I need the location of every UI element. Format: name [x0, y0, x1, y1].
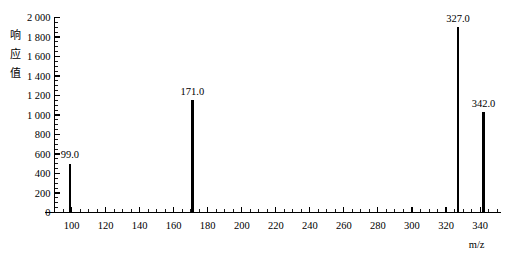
chart-canvas: 02004006008001 0001 2001 4001 6001 8002 … [0, 0, 519, 258]
x-axis-tick-label: 120 [98, 220, 114, 231]
x-axis-tick-label: 300 [404, 220, 420, 231]
plot-area: 02004006008001 0001 2001 4001 6001 8002 … [0, 0, 519, 258]
x-axis-tick-label: 200 [234, 220, 250, 231]
y-axis-tick-label: 1 800 [27, 32, 51, 43]
peak-label: 342.0 [472, 98, 496, 109]
y-axis-tick-label: 1 200 [27, 90, 51, 101]
y-axis-title-char-2: 应 [6, 45, 24, 64]
y-axis-tick-label: 800 [35, 129, 51, 140]
y-axis-tick-label: 200 [35, 188, 51, 199]
mass-spectrum-chart: 02004006008001 0001 2001 4001 6001 8002 … [0, 0, 519, 258]
x-axis-tick-label: 320 [438, 220, 454, 231]
y-axis-tick-label: 1 600 [27, 51, 51, 62]
y-axis-title-char-3: 值 [6, 64, 24, 83]
x-axis-tick-label: 280 [370, 220, 386, 231]
y-axis-tick-label: 400 [35, 168, 51, 179]
x-axis-tick-label: 160 [166, 220, 182, 231]
y-axis-tick-label: 0 [45, 207, 50, 218]
x-axis-tick-label: 240 [302, 220, 318, 231]
y-axis-title-char-1: 响 [6, 26, 24, 45]
x-axis-tick-label: 260 [336, 220, 352, 231]
x-axis-title: m/z [469, 239, 485, 250]
y-axis-tick-label: 2 000 [27, 12, 51, 23]
x-axis-tick-label: 140 [132, 220, 148, 231]
peak-label: 327.0 [446, 13, 470, 24]
x-axis-tick-label: 340 [472, 220, 488, 231]
peak-label: 171.0 [181, 86, 205, 97]
y-axis-tick-label: 600 [35, 149, 51, 160]
x-axis-tick-label: 220 [268, 220, 284, 231]
x-axis-tick-label: 100 [64, 220, 80, 231]
peak-label: 99.0 [61, 149, 79, 160]
y-axis-title: 响 应 值 [6, 26, 24, 83]
y-axis-tick-label: 1 000 [27, 110, 51, 121]
y-axis-tick-label: 1 400 [27, 71, 51, 82]
x-axis-tick-label: 180 [200, 220, 216, 231]
